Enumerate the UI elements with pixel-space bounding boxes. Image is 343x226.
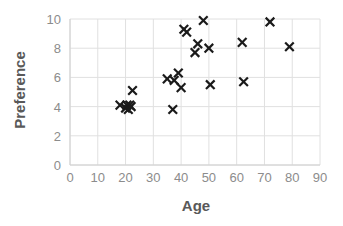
x-tick-label: 0 [66, 170, 73, 185]
y-tick-label: 6 [54, 70, 61, 85]
x-tick-label: 30 [146, 170, 160, 185]
y-tick-label: 8 [54, 41, 61, 56]
x-tick-label: 20 [118, 170, 132, 185]
plot-svg: 0102030405060708090 0246810 Age Preferen… [0, 0, 343, 226]
y-axis-title: Preference [11, 51, 28, 129]
x-axis-title: Age [182, 197, 210, 214]
x-tick-label: 50 [202, 170, 216, 185]
chart-background [0, 0, 343, 226]
y-tick-label: 2 [54, 129, 61, 144]
y-tick-label: 0 [54, 158, 61, 173]
x-tick-label: 70 [257, 170, 271, 185]
x-tick-label: 80 [285, 170, 299, 185]
x-tick-label: 40 [174, 170, 188, 185]
y-tick-label: 4 [54, 100, 61, 115]
x-tick-label: 60 [229, 170, 243, 185]
y-tick-label: 10 [47, 12, 61, 27]
scatter-chart: 0102030405060708090 0246810 Age Preferen… [0, 0, 343, 226]
x-tick-label: 90 [313, 170, 327, 185]
x-tick-label: 10 [91, 170, 105, 185]
